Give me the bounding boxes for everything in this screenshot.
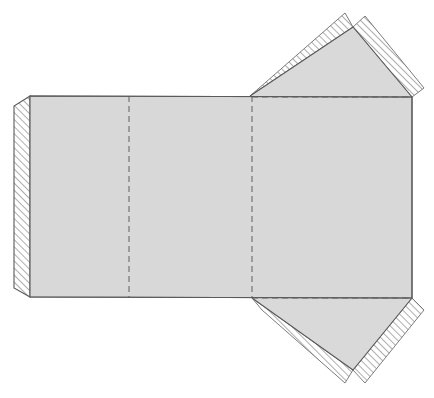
left-glue-flap-group [14,96,30,297]
top-closure-flap-group [250,13,424,97]
left-glue-flap [14,96,30,297]
main-body-panel [30,96,412,298]
dieline-diagram [0,0,434,398]
bottom-closure-flap-group [252,298,424,383]
main-body-group [30,96,412,298]
